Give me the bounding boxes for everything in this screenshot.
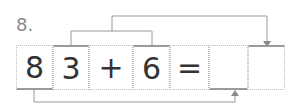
answer-ones-input[interactable] bbox=[248, 45, 285, 90]
cell-digit-ones: 3 bbox=[53, 45, 89, 90]
answer-tens-input[interactable] bbox=[209, 45, 248, 90]
cell-equals-sign: = bbox=[170, 45, 209, 90]
arrow-up-icon bbox=[231, 90, 239, 96]
cell-addend: 6 bbox=[133, 45, 170, 90]
cell-digit-tens: 8 bbox=[16, 45, 53, 90]
cell-plus-sign: + bbox=[89, 45, 133, 90]
